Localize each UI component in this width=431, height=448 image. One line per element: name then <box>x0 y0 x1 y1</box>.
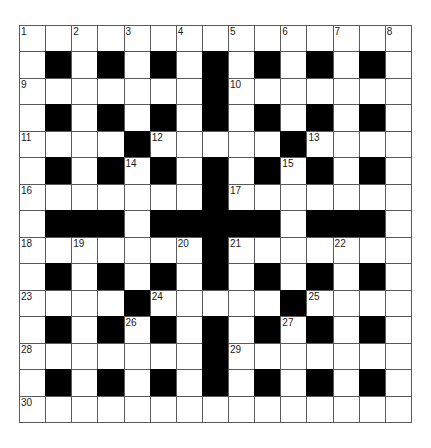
answer-cell[interactable] <box>19 263 45 289</box>
answer-cell[interactable] <box>71 51 97 77</box>
answer-cell[interactable]: 23 <box>19 290 45 316</box>
answer-cell[interactable] <box>71 157 97 183</box>
answer-cell[interactable] <box>359 25 385 51</box>
answer-cell[interactable] <box>176 263 202 289</box>
answer-cell[interactable] <box>97 396 123 422</box>
answer-cell[interactable] <box>228 51 254 77</box>
answer-cell[interactable] <box>254 78 280 104</box>
answer-cell[interactable] <box>176 343 202 369</box>
answer-cell[interactable] <box>359 396 385 422</box>
answer-cell[interactable]: 30 <box>19 396 45 422</box>
answer-cell[interactable] <box>45 78 71 104</box>
answer-cell[interactable]: 6 <box>280 25 306 51</box>
answer-cell[interactable] <box>176 78 202 104</box>
answer-cell[interactable] <box>19 157 45 183</box>
answer-cell[interactable] <box>280 78 306 104</box>
answer-cell[interactable] <box>333 104 359 130</box>
answer-cell[interactable] <box>280 369 306 395</box>
answer-cell[interactable] <box>71 290 97 316</box>
answer-cell[interactable] <box>124 263 150 289</box>
answer-cell[interactable] <box>176 184 202 210</box>
answer-cell[interactable] <box>359 131 385 157</box>
answer-cell[interactable] <box>124 343 150 369</box>
answer-cell[interactable] <box>71 184 97 210</box>
answer-cell[interactable] <box>45 237 71 263</box>
answer-cell[interactable] <box>385 184 411 210</box>
answer-cell[interactable] <box>150 184 176 210</box>
answer-cell[interactable] <box>280 263 306 289</box>
answer-cell[interactable] <box>385 210 411 236</box>
answer-cell[interactable] <box>45 25 71 51</box>
answer-cell[interactable] <box>124 104 150 130</box>
answer-cell[interactable]: 13 <box>306 131 332 157</box>
answer-cell[interactable]: 4 <box>176 25 202 51</box>
answer-cell[interactable] <box>333 369 359 395</box>
answer-cell[interactable] <box>124 369 150 395</box>
answer-cell[interactable] <box>254 131 280 157</box>
answer-cell[interactable] <box>97 131 123 157</box>
answer-cell[interactable] <box>385 343 411 369</box>
answer-cell[interactable] <box>359 343 385 369</box>
answer-cell[interactable] <box>280 184 306 210</box>
answer-cell[interactable]: 2 <box>71 25 97 51</box>
answer-cell[interactable]: 21 <box>228 237 254 263</box>
answer-cell[interactable]: 16 <box>19 184 45 210</box>
answer-cell[interactable] <box>333 263 359 289</box>
answer-cell[interactable] <box>45 396 71 422</box>
answer-cell[interactable] <box>19 51 45 77</box>
answer-cell[interactable]: 11 <box>19 131 45 157</box>
answer-cell[interactable] <box>150 78 176 104</box>
answer-cell[interactable] <box>71 369 97 395</box>
answer-cell[interactable] <box>202 290 228 316</box>
answer-cell[interactable] <box>333 51 359 77</box>
answer-cell[interactable] <box>124 78 150 104</box>
answer-cell[interactable]: 26 <box>124 316 150 342</box>
answer-cell[interactable]: 17 <box>228 184 254 210</box>
answer-cell[interactable]: 15 <box>280 157 306 183</box>
answer-cell[interactable] <box>19 210 45 236</box>
answer-cell[interactable] <box>280 396 306 422</box>
answer-cell[interactable] <box>359 78 385 104</box>
answer-cell[interactable] <box>306 25 332 51</box>
answer-cell[interactable] <box>280 343 306 369</box>
answer-cell[interactable]: 1 <box>19 25 45 51</box>
answer-cell[interactable] <box>306 396 332 422</box>
answer-cell[interactable]: 29 <box>228 343 254 369</box>
answer-cell[interactable] <box>306 184 332 210</box>
answer-cell[interactable] <box>176 131 202 157</box>
answer-cell[interactable] <box>176 369 202 395</box>
answer-cell[interactable] <box>202 131 228 157</box>
answer-cell[interactable] <box>306 237 332 263</box>
answer-cell[interactable] <box>176 157 202 183</box>
answer-cell[interactable] <box>254 25 280 51</box>
answer-cell[interactable] <box>385 78 411 104</box>
answer-cell[interactable] <box>176 396 202 422</box>
answer-cell[interactable] <box>202 25 228 51</box>
answer-cell[interactable] <box>45 290 71 316</box>
answer-cell[interactable] <box>333 316 359 342</box>
answer-cell[interactable] <box>45 184 71 210</box>
answer-cell[interactable] <box>19 316 45 342</box>
answer-cell[interactable] <box>228 369 254 395</box>
answer-cell[interactable] <box>19 104 45 130</box>
answer-cell[interactable]: 22 <box>333 237 359 263</box>
answer-cell[interactable] <box>71 78 97 104</box>
answer-cell[interactable] <box>385 290 411 316</box>
answer-cell[interactable]: 25 <box>306 290 332 316</box>
answer-cell[interactable] <box>176 290 202 316</box>
answer-cell[interactable] <box>124 184 150 210</box>
answer-cell[interactable] <box>228 396 254 422</box>
answer-cell[interactable] <box>150 237 176 263</box>
answer-cell[interactable]: 24 <box>150 290 176 316</box>
answer-cell[interactable] <box>333 184 359 210</box>
answer-cell[interactable] <box>228 157 254 183</box>
answer-cell[interactable] <box>306 343 332 369</box>
answer-cell[interactable]: 19 <box>71 237 97 263</box>
answer-cell[interactable]: 7 <box>333 25 359 51</box>
answer-cell[interactable] <box>45 131 71 157</box>
answer-cell[interactable] <box>359 237 385 263</box>
answer-cell[interactable] <box>254 237 280 263</box>
answer-cell[interactable] <box>124 210 150 236</box>
answer-cell[interactable]: 28 <box>19 343 45 369</box>
answer-cell[interactable] <box>176 316 202 342</box>
